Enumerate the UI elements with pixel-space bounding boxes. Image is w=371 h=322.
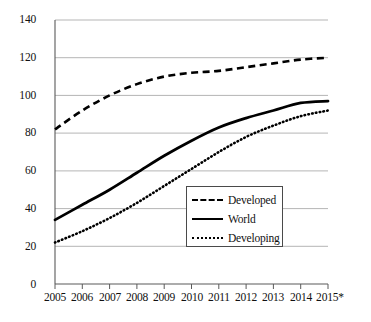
- legend-item-developing: Developing: [187, 228, 282, 247]
- legend-label: Developed: [228, 194, 276, 206]
- dotted-line-sample-icon: [192, 233, 223, 243]
- solid-line-sample-icon: [192, 214, 223, 224]
- dashed-line-sample-icon: [192, 195, 223, 205]
- legend-label: World: [228, 213, 255, 225]
- line-chart: 140 120 100 80 60 40 20 0: [0, 0, 371, 322]
- legend-item-world: World: [187, 209, 282, 228]
- plot-area: [0, 0, 371, 322]
- legend-item-developed: Developed: [187, 190, 282, 209]
- legend-label: Developing: [228, 232, 280, 244]
- x-tick-label: 2015*: [306, 291, 354, 303]
- x-axis-ticks: [55, 284, 328, 289]
- chart-legend: Developed World Developing: [186, 186, 283, 247]
- series-line-developed: [55, 58, 328, 130]
